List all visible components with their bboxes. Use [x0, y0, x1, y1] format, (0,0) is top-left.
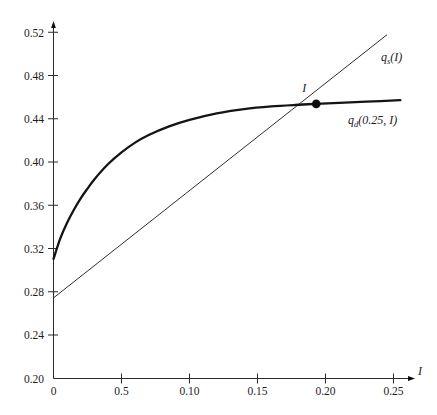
y-tick-label: 0.48 [24, 70, 44, 82]
axes-group: I [51, 21, 423, 381]
y-tick-label: 0.32 [24, 243, 44, 255]
x-tick-0-20: 0.20 [315, 374, 335, 397]
y-tick-0-24: 0.24 [24, 329, 58, 341]
y-tick-label: 0.44 [24, 113, 44, 125]
x-tick-label: 0.5 [114, 385, 129, 397]
supply-demand-plot: I 0.52 0.48 0.44 0.40 0.36 [0, 0, 437, 415]
x-tick-label: 0 [51, 385, 57, 397]
y-tick-label: 0.52 [24, 27, 44, 39]
x-axis-arrowhead [408, 376, 415, 381]
x-tick-0-15: 0.15 [247, 374, 267, 397]
x-tick-0-05: 0.5 [114, 374, 129, 397]
x-tick-0: 0 [51, 385, 57, 397]
supply-label-tail: (I) [390, 50, 402, 64]
y-tick-0-28: 0.28 [24, 286, 58, 298]
y-tick-label: 0.20 [24, 373, 44, 385]
x-axis-label: I [417, 364, 423, 378]
supply-curve-label: qs(I) [381, 50, 402, 66]
curve-labels-group: qs(I) qd(0.25, I) [348, 50, 402, 129]
x-tick-label: 0.10 [179, 385, 199, 397]
demand-curve-label: qd(0.25, I) [348, 113, 397, 129]
chart-figure: I 0.52 0.48 0.44 0.40 0.36 [0, 0, 437, 415]
equilibrium-point-label: I [301, 81, 307, 95]
y-tick-label: 0.40 [24, 156, 44, 168]
data-curves-group [54, 35, 401, 298]
supply-curve [54, 35, 387, 298]
x-ticks-group: 0 0.5 0.10 0.15 0.20 0.25 [51, 374, 404, 397]
y-tick-0-32: 0.32 [24, 243, 58, 255]
y-tick-0-52: 0.52 [24, 27, 58, 39]
y-tick-label: 0.36 [24, 200, 44, 212]
y-tick-0-20: 0.20 [24, 373, 44, 385]
y-tick-0-44: 0.44 [24, 113, 58, 125]
y-tick-label: 0.24 [24, 329, 44, 341]
y-tick-0-40: 0.40 [24, 156, 58, 168]
equilibrium-point-marker [312, 100, 321, 109]
y-tick-0-36: 0.36 [24, 200, 58, 212]
demand-label-tail: (0.25, I) [358, 113, 397, 127]
x-tick-0-10: 0.10 [179, 374, 199, 397]
y-ticks-group: 0.52 0.48 0.44 0.40 0.36 0.32 [24, 27, 58, 385]
y-tick-label: 0.28 [24, 286, 44, 298]
x-tick-label: 0.15 [247, 385, 267, 397]
y-tick-0-48: 0.48 [24, 70, 58, 82]
x-tick-label: 0.20 [315, 385, 335, 397]
x-tick-label: 0.25 [383, 385, 403, 397]
y-axis-arrowhead [51, 21, 56, 28]
x-tick-0-25: 0.25 [383, 374, 403, 397]
